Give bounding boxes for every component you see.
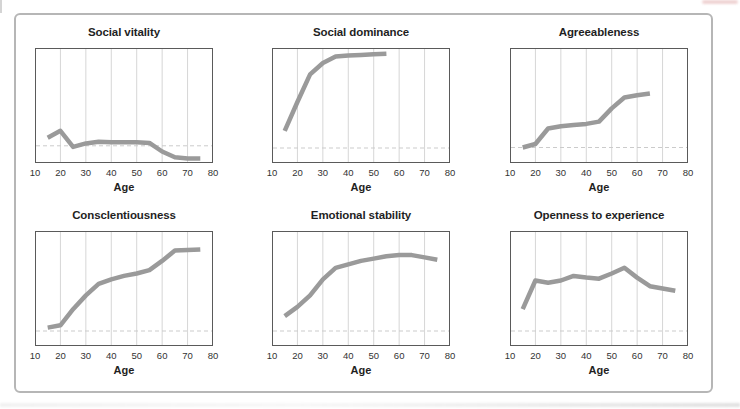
plot-area — [510, 48, 688, 163]
x-tick-label: 60 — [394, 167, 405, 178]
gridlines — [60, 232, 187, 345]
x-tick-label: 40 — [343, 350, 354, 361]
x-tick-label: 20 — [292, 350, 303, 361]
x-tick-label: 80 — [208, 350, 219, 361]
x-tick-label: 40 — [106, 350, 117, 361]
x-tick-label: 20 — [55, 167, 66, 178]
chart-openness-to-experience: Openness to experience 1020304050607080 … — [486, 209, 712, 381]
x-tick-label: 30 — [318, 167, 329, 178]
gridlines — [535, 49, 662, 162]
x-tick-label: 50 — [606, 167, 617, 178]
chart-title: Social dominance — [248, 26, 474, 38]
x-tick-labels: 1020304050607080 — [35, 167, 213, 179]
x-tick-label: 70 — [657, 350, 668, 361]
x-tick-label: 30 — [318, 350, 329, 361]
x-tick-label: 50 — [131, 167, 142, 178]
x-tick-label: 10 — [30, 350, 41, 361]
x-axis-label: Age — [272, 181, 450, 193]
plot-border — [273, 49, 450, 163]
trend-line — [48, 131, 201, 159]
scan-artifact-left — [0, 0, 2, 13]
plot-area — [272, 48, 450, 163]
chart-title: Consclentiousness — [11, 209, 237, 221]
scan-artifact-pink — [702, 0, 738, 4]
x-axis-label: Age — [510, 181, 688, 193]
x-tick-label: 80 — [445, 350, 456, 361]
chart-social-vitality: Social vitality 1020304050607080 Age — [11, 26, 237, 198]
x-tick-label: 40 — [581, 350, 592, 361]
x-tick-label: 70 — [657, 167, 668, 178]
x-tick-label: 80 — [683, 350, 694, 361]
x-tick-labels: 1020304050607080 — [510, 167, 688, 179]
x-tick-label: 50 — [131, 350, 142, 361]
x-tick-label: 60 — [157, 167, 168, 178]
x-tick-label: 30 — [81, 167, 92, 178]
x-axis-label: Age — [35, 181, 213, 193]
trend-line — [285, 54, 387, 131]
x-axis-label: Age — [510, 364, 688, 376]
chart-title: Emotional stability — [248, 209, 474, 221]
x-tick-label: 70 — [419, 167, 430, 178]
x-tick-label: 10 — [505, 167, 516, 178]
x-tick-label: 60 — [157, 350, 168, 361]
scan-artifact-bottom — [0, 403, 740, 407]
plot-area — [35, 48, 213, 163]
x-tick-label: 50 — [606, 350, 617, 361]
x-tick-label: 20 — [530, 350, 541, 361]
x-tick-label: 70 — [182, 167, 193, 178]
x-tick-label: 60 — [632, 167, 643, 178]
x-tick-label: 70 — [182, 350, 193, 361]
trend-line — [523, 268, 676, 309]
x-tick-label: 10 — [30, 167, 41, 178]
plot-area — [272, 231, 450, 346]
x-tick-labels: 1020304050607080 — [35, 350, 213, 362]
x-tick-label: 50 — [368, 350, 379, 361]
chart-social-dominance: Social dominance 1020304050607080 Age — [248, 26, 474, 198]
chart-title: Openness to experience — [486, 209, 712, 221]
x-tick-label: 30 — [556, 350, 567, 361]
x-tick-label: 40 — [581, 167, 592, 178]
chart-emotional-stability: Emotional stability 1020304050607080 Age — [248, 209, 474, 381]
x-tick-label: 10 — [505, 350, 516, 361]
plot-border — [273, 232, 450, 346]
x-tick-label: 30 — [556, 167, 567, 178]
x-tick-label: 40 — [343, 167, 354, 178]
chart-conscientiousness: Consclentiousness 1020304050607080 Age — [11, 209, 237, 381]
x-tick-label: 20 — [530, 167, 541, 178]
x-tick-labels: 1020304050607080 — [510, 350, 688, 362]
plot-area — [35, 231, 213, 346]
chart-title: Social vitality — [11, 26, 237, 38]
x-tick-label: 10 — [267, 350, 278, 361]
x-tick-label: 30 — [81, 350, 92, 361]
chart-agreeableness: Agreeableness 1020304050607080 Age — [486, 26, 712, 198]
x-tick-label: 50 — [368, 167, 379, 178]
x-tick-label: 80 — [683, 167, 694, 178]
x-tick-labels: 1020304050607080 — [272, 167, 450, 179]
chart-title: Agreeableness — [486, 26, 712, 38]
x-axis-label: Age — [35, 364, 213, 376]
x-axis-label: Age — [272, 364, 450, 376]
trend-line — [48, 249, 201, 327]
plot-area — [510, 231, 688, 346]
x-tick-label: 70 — [419, 350, 430, 361]
x-tick-labels: 1020304050607080 — [272, 350, 450, 362]
x-tick-label: 60 — [632, 350, 643, 361]
x-tick-label: 20 — [55, 350, 66, 361]
x-tick-label: 80 — [445, 167, 456, 178]
gridlines — [535, 232, 662, 345]
x-tick-label: 10 — [267, 167, 278, 178]
x-tick-label: 20 — [292, 167, 303, 178]
x-tick-label: 60 — [394, 350, 405, 361]
trend-line — [285, 255, 438, 316]
x-tick-label: 80 — [208, 167, 219, 178]
x-tick-label: 40 — [106, 167, 117, 178]
